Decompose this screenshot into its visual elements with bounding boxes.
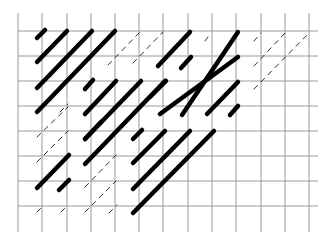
thick-diagonal-segment (37, 31, 92, 88)
dashed-diagonal-segment (254, 32, 310, 89)
thick-diagonal-segment (37, 31, 115, 112)
thick-diagonal-segment (181, 57, 191, 68)
thick-diagonal-segment (182, 32, 238, 115)
dashed-diagonal-segment (254, 33, 261, 41)
diagram-canvas (0, 0, 326, 243)
thick-diagonal-segment (133, 131, 214, 213)
thick-diagonal-segment (133, 131, 190, 189)
dashed-diagonal-segment (254, 32, 286, 66)
thick-diagonal-segment (230, 106, 238, 115)
dashed-diagonal-segment (205, 33, 211, 41)
thick-diagonal-segment (150, 81, 166, 97)
dashed-diagonal-segment (85, 181, 116, 212)
dashed-diagonal-segment (133, 32, 163, 63)
grid-lines (18, 13, 318, 232)
diagonal-grid-diagram (0, 0, 326, 243)
dashed-diagonals (37, 32, 310, 213)
thick-diagonal-segment (160, 57, 238, 114)
